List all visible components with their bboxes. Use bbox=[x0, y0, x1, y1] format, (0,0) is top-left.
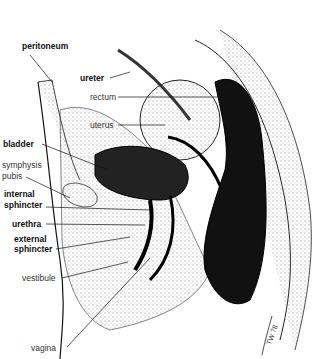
anatomy-diagram: peritoneum ureter rectum uterus bladder … bbox=[0, 0, 320, 359]
label-bladder: bladder bbox=[3, 139, 34, 149]
label-vagina: vagina bbox=[31, 343, 56, 353]
label-vestibule: vestibule bbox=[22, 273, 56, 283]
label-symphysis: symphysis bbox=[2, 160, 42, 170]
pelvis-illustration bbox=[0, 0, 320, 359]
label-ureter: ureter bbox=[80, 73, 104, 83]
label-internal: internal bbox=[4, 189, 35, 199]
label-pubis: pubis bbox=[2, 171, 22, 181]
label-peritoneum: peritoneum bbox=[22, 41, 68, 51]
label-rectum: rectum bbox=[90, 92, 116, 102]
label-uterus: uterus bbox=[90, 120, 114, 130]
label-urethra: urethra bbox=[12, 219, 41, 229]
label-external-sphincter: sphincter bbox=[14, 244, 52, 254]
label-external: external bbox=[14, 234, 47, 244]
label-internal-sphincter: sphincter bbox=[4, 200, 42, 210]
